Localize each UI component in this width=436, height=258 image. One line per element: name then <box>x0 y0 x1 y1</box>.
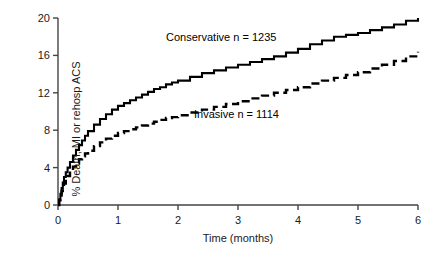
x-tick-label: 6 <box>415 214 421 226</box>
x-tick-label: 5 <box>355 214 361 226</box>
y-tick-label: 20 <box>24 12 50 24</box>
y-tick-label: 8 <box>24 124 50 136</box>
y-tick-label: 4 <box>24 162 50 174</box>
series-label-conservative: Conservative n = 1235 <box>166 31 276 43</box>
x-tick-label: 1 <box>115 214 121 226</box>
x-tick-label: 0 <box>55 214 61 226</box>
series-label-invasive: Invasive n = 1114 <box>194 108 279 120</box>
x-axis-title: Time (months) <box>203 232 274 244</box>
chart-container: % Death, MI or rehosp ACS Time (months) … <box>0 0 436 258</box>
series-line-invasive <box>58 52 418 205</box>
x-tick-label: 4 <box>295 214 301 226</box>
y-tick-label: 12 <box>24 87 50 99</box>
x-tick-label: 3 <box>235 214 241 226</box>
y-tick-label: 0 <box>24 199 50 211</box>
x-tick-label: 2 <box>175 214 181 226</box>
y-axis-title: % Death, MI or rehosp ACS <box>70 61 82 196</box>
y-tick-label: 16 <box>24 49 50 61</box>
